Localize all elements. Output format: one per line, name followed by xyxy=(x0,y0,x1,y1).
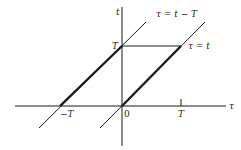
label-eq-upper: τ = t − T xyxy=(156,9,198,19)
bold-segment-left xyxy=(60,46,122,106)
label-T-on-t-axis: T xyxy=(112,41,119,51)
label-neg-T: −T xyxy=(60,109,75,119)
tau-axis-label: τ xyxy=(229,101,235,111)
bold-segment-right xyxy=(122,46,181,106)
label-pos-T: T xyxy=(178,109,185,119)
diagram-canvas: t τ T 0 −T T τ = t − T τ = t xyxy=(0,0,241,150)
label-eq-lower: τ = t xyxy=(188,41,210,51)
label-origin: 0 xyxy=(124,109,130,119)
t-axis-label: t xyxy=(116,7,120,17)
